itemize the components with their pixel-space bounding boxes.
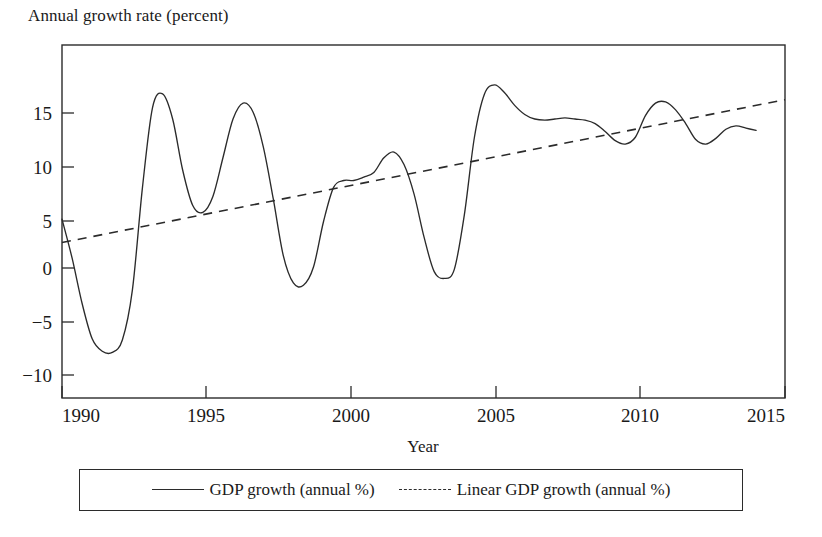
y-tick-labels: 15 10 5 0 −5 −10 [22, 103, 52, 386]
y-tick-label-minus10: −10 [22, 365, 52, 386]
legend-solid-line-icon [152, 485, 204, 495]
y-tick-label-0: 0 [43, 258, 53, 279]
x-axis-ticks [62, 386, 785, 398]
legend-entry-linear-gdp-growth: Linear GDP growth (annual %) [399, 480, 671, 500]
legend-dashed-line-icon [399, 485, 451, 495]
plot-area: 15 10 5 0 −5 −10 1990 1995 2000 2005 201… [0, 0, 822, 470]
x-axis-title: Year [407, 437, 439, 456]
legend-label-linear-gdp-growth: Linear GDP growth (annual %) [457, 480, 671, 500]
x-tick-label-2005: 2005 [477, 405, 515, 426]
y-tick-label-minus5: −5 [32, 312, 52, 333]
x-tick-label-2015: 2015 [747, 405, 785, 426]
y-tick-label-5: 5 [43, 211, 53, 232]
legend-label-gdp-growth: GDP growth (annual %) [210, 480, 375, 500]
chart-figure: Annual growth rate (percent) 15 10 5 0 −… [0, 0, 822, 537]
x-tick-label-2000: 2000 [332, 405, 370, 426]
y-tick-label-15: 15 [33, 103, 52, 124]
series-linear-gdp-growth [62, 100, 785, 243]
legend-entry-gdp-growth: GDP growth (annual %) [152, 480, 375, 500]
x-tick-label-1995: 1995 [187, 405, 225, 426]
y-tick-label-10: 10 [33, 157, 52, 178]
series-gdp-growth [62, 85, 756, 354]
plot-frame [62, 45, 785, 398]
x-tick-label-1990: 1990 [62, 405, 100, 426]
chart-legend: GDP growth (annual %) Linear GDP growth … [79, 469, 743, 511]
x-tick-label-2010: 2010 [621, 405, 659, 426]
x-tick-labels: 1990 1995 2000 2005 2010 2015 [62, 405, 785, 426]
